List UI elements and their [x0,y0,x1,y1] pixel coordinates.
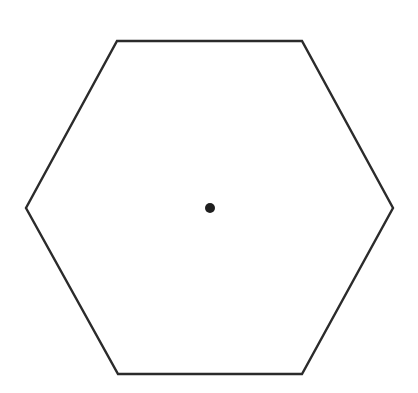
center-point [205,203,215,213]
diagram-canvas [0,0,418,393]
background [0,0,418,393]
